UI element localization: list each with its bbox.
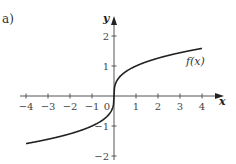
y-tick-label: 2	[103, 31, 109, 42]
y-tick-label: 1	[103, 61, 109, 72]
x-axis-label: x	[218, 95, 226, 108]
x-tick-label: 4	[199, 101, 205, 112]
y-tick-label: −2	[94, 151, 109, 162]
x-tick-label: −2	[63, 101, 78, 112]
x-tick-label: 3	[177, 101, 183, 112]
function-label: f(x)	[185, 55, 205, 68]
plot-area: xy−4−3−2−11234−2−1120f(x)	[0, 0, 236, 164]
x-tick-label: 2	[155, 101, 161, 112]
y-axis-label: y	[102, 12, 111, 25]
x-tick-label: 1	[133, 101, 139, 112]
x-tick-label: −1	[85, 101, 100, 112]
y-tick-label: −1	[94, 121, 109, 132]
x-tick-label: −4	[19, 101, 34, 112]
y-axis-arrow-icon	[111, 16, 117, 25]
x-tick-label: −3	[41, 101, 56, 112]
origin-label: 0	[104, 101, 110, 112]
